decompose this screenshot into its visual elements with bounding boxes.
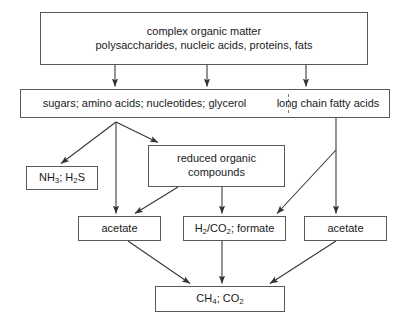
node-ch4-co2: CH4; CO2	[155, 286, 285, 312]
complex-organic-matter-line1: complex organic matter	[41, 25, 367, 39]
reduced-organic-line2: compounds	[188, 166, 245, 178]
acetate-left-label: acetate	[79, 222, 160, 236]
ch4-co2-label: CH4; CO2	[156, 292, 284, 306]
node-monomers-row: sugars; amino acids; nucleotides; glycer…	[20, 89, 390, 118]
monomers-left-label: sugars; amino acids; nucleotides; glycer…	[43, 97, 247, 111]
reduced-organic-line1: reduced organic	[177, 152, 256, 164]
node-complex-organic-matter: complex organic matter polysaccharides, …	[40, 12, 368, 65]
edge-acetate-right-to-ch4	[270, 241, 336, 284]
flow-diagram: complex organic matter polysaccharides, …	[0, 0, 410, 322]
edge-monomers-to-reduced	[116, 122, 158, 143]
complex-organic-matter-line2: polysaccharides, nucleic acids, proteins…	[41, 39, 367, 53]
h2-co2-formate-label: H2/CO2; formate	[184, 222, 285, 236]
edge-fatty-to-h2co2	[277, 150, 336, 214]
nh3-h2s-label: NH3; H2S	[27, 171, 97, 185]
node-nh3-h2s: NH3; H2S	[26, 166, 98, 190]
node-acetate-right: acetate	[304, 216, 387, 241]
node-h2-co2-formate: H2/CO2; formate	[183, 216, 286, 241]
edge-reduced-to-acetate-left	[135, 187, 178, 214]
node-reduced-organic-compounds: reduced organic compounds	[148, 145, 285, 187]
monomers-right-label: long chain fatty acids	[277, 97, 380, 111]
acetate-right-label: acetate	[305, 222, 386, 236]
edge-acetate-left-to-ch4	[128, 241, 190, 284]
node-monomers-left: sugars; amino acids; nucleotides; glycer…	[21, 90, 268, 117]
edge-monomers-to-nh3	[61, 122, 116, 164]
node-acetate-left: acetate	[78, 216, 161, 241]
node-long-chain-fatty-acids: long chain fatty acids	[267, 90, 389, 117]
